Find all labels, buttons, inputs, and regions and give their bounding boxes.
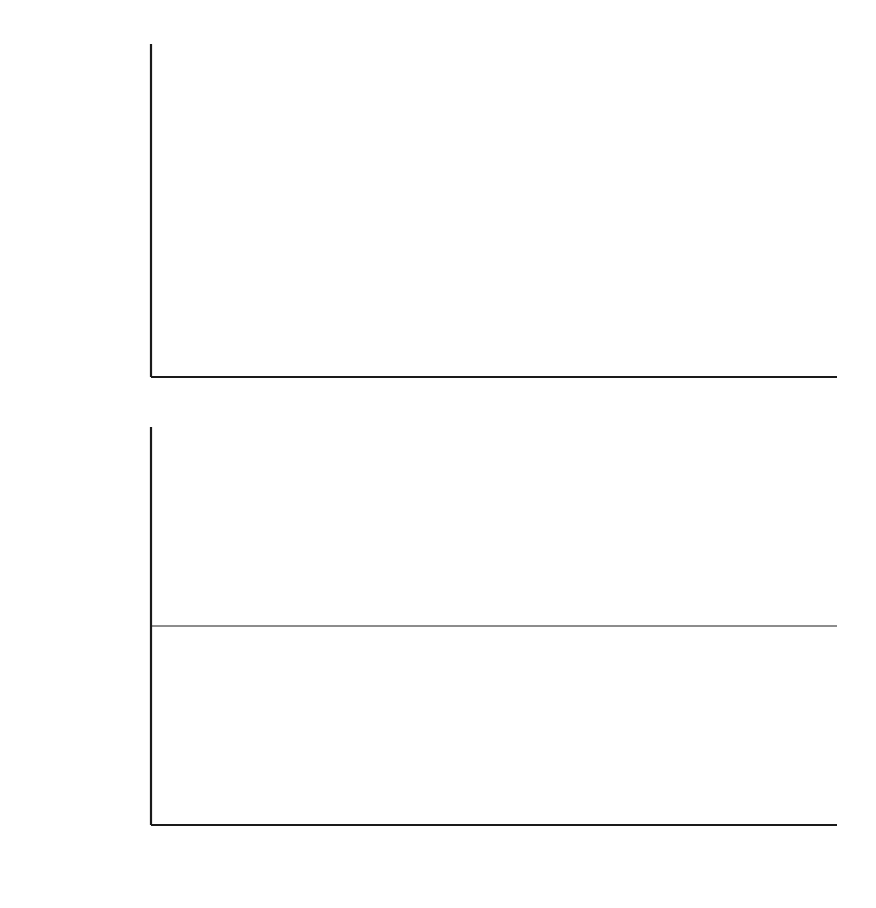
chart-figure — [0, 0, 876, 908]
top-panel — [151, 44, 837, 377]
bottom-panel — [151, 427, 837, 825]
